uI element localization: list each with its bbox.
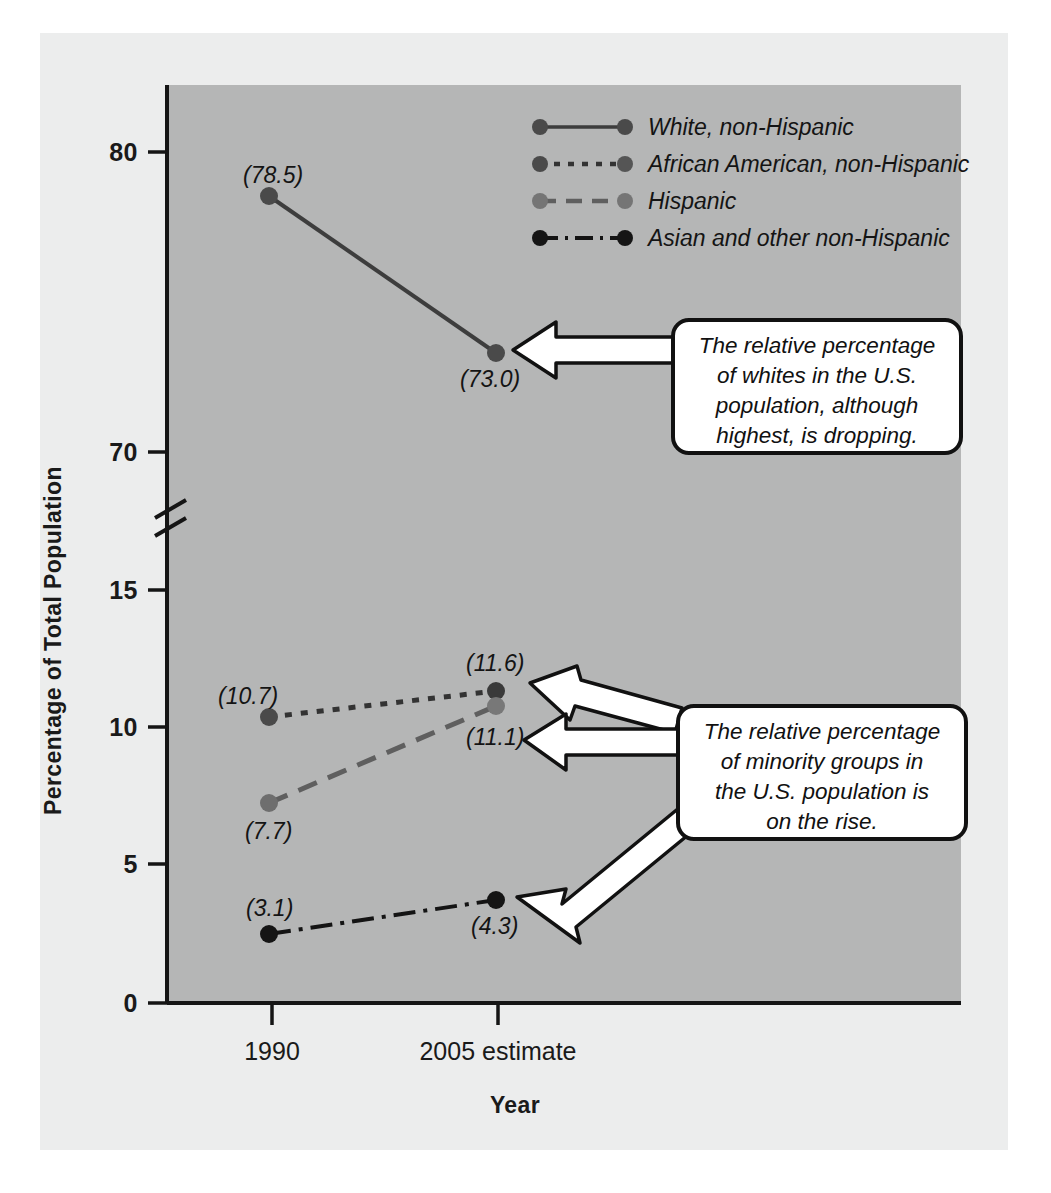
chart-figure: Percentage of Total Population 80 70 15 … [0, 0, 1051, 1193]
y-tick-label-15: 15 [58, 576, 138, 605]
marker-hispanic-2005 [487, 697, 505, 715]
callout-whites-line3: population, although [681, 391, 953, 421]
marker-asian-1990 [260, 925, 278, 943]
marker-white-1990 [260, 187, 278, 205]
data-label-hispanic-1990: (7.7) [245, 818, 292, 845]
callout-minority-text: The relative percentage of minority grou… [686, 717, 958, 837]
y-tick-label-10: 10 [58, 713, 138, 742]
callout-whites-text: The relative percentage of whites in the… [681, 331, 953, 451]
marker-white-2005 [487, 344, 505, 362]
y-tick-label-5: 5 [58, 850, 138, 879]
y-tick-label-80: 80 [58, 138, 138, 167]
legend-label-hispanic: Hispanic [648, 188, 736, 215]
data-label-asian-1990: (3.1) [246, 895, 293, 922]
callout-whites-line4: highest, is dropping. [681, 421, 953, 451]
x-axis-title: Year [415, 1092, 615, 1119]
data-label-white-2005: (73.0) [460, 366, 520, 393]
y-tick-label-70: 70 [58, 438, 138, 467]
data-label-african-american-2005: (11.6) [466, 650, 524, 677]
marker-asian-2005 [487, 891, 505, 909]
x-tick-label-1990: 1990 [192, 1037, 352, 1066]
callout-whites-line2: of whites in the U.S. [681, 361, 953, 391]
y-tick-label-0: 0 [58, 989, 138, 1018]
legend-label-asian: Asian and other non-Hispanic [648, 225, 950, 252]
callout-minority-line2: of minority groups in [686, 747, 958, 777]
data-label-african-american-1990: (10.7) [218, 683, 278, 710]
callout-minority-line3: the U.S. population is [686, 777, 958, 807]
data-label-asian-2005: (4.3) [471, 913, 518, 940]
callout-whites-line1: The relative percentage [681, 331, 953, 361]
marker-hispanic-1990 [260, 794, 278, 812]
data-label-white-1990: (78.5) [243, 162, 303, 189]
callout-minority-line1: The relative percentage [686, 717, 958, 747]
chart-canvas [0, 0, 1051, 1193]
callout-minority-line4: on the rise. [686, 807, 958, 837]
x-tick-label-2005: 2005 estimate [378, 1037, 618, 1066]
data-label-hispanic-2005: (11.1) [466, 724, 524, 751]
plot-area [167, 85, 961, 1003]
legend-label-african-american: African American, non-Hispanic [648, 151, 969, 178]
y-axis-title: Percentage of Total Population [40, 466, 67, 815]
marker-african-american-1990 [260, 708, 278, 726]
legend-label-white: White, non-Hispanic [648, 114, 854, 141]
